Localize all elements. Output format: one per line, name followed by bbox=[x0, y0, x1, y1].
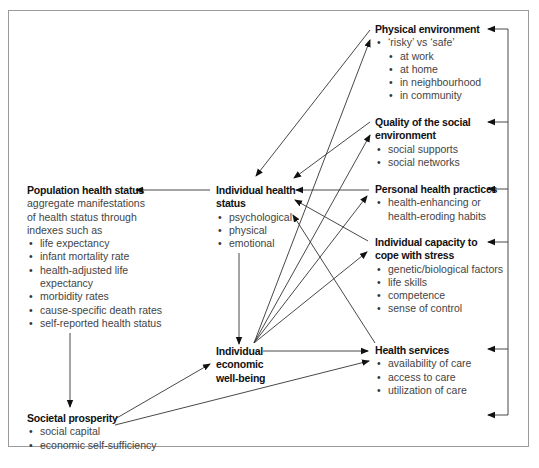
item-list: life expectancy infant mortality rate he… bbox=[27, 237, 162, 330]
list-item: life expectancy bbox=[27, 237, 162, 250]
node-physical-environment: Physical environment ‘risky’ vs ‘safe’ a… bbox=[375, 23, 481, 103]
list-item: economic self-sufficiency bbox=[27, 439, 157, 452]
node-title: Population health status bbox=[27, 184, 162, 197]
node-title: status bbox=[216, 197, 295, 210]
list-item: cause-specific death rates bbox=[27, 304, 162, 317]
list-item: infant mortality rate bbox=[27, 250, 162, 263]
list-item: emotional bbox=[216, 237, 295, 250]
node-population-health-status: Population health status aggregate manif… bbox=[27, 184, 162, 330]
list-item: availability of care bbox=[375, 357, 471, 370]
node-title: Health services bbox=[375, 344, 471, 357]
node-title: economic bbox=[216, 358, 265, 371]
list-item: physical bbox=[216, 224, 295, 237]
node-title: Societal prosperity bbox=[27, 412, 157, 425]
item-list: genetic/biological factors life skills c… bbox=[375, 263, 503, 316]
list-item: self-reported health status bbox=[27, 317, 162, 330]
list-item: genetic/biological factors bbox=[375, 263, 503, 276]
node-description: indexes such as bbox=[27, 224, 162, 237]
node-title: Personal health practices bbox=[375, 183, 497, 196]
list-item: social networks bbox=[375, 156, 471, 169]
item-list: health-enhancing or health-eroding habit… bbox=[375, 196, 497, 223]
node-title: well-being bbox=[216, 372, 265, 385]
list-item: at work bbox=[375, 50, 481, 63]
item-list: social capital economic self-sufficiency bbox=[27, 425, 157, 452]
node-capacity-to-cope: Individual capacity to cope with stress … bbox=[375, 236, 503, 316]
list-item: utilization of care bbox=[375, 384, 471, 397]
list-item: in community bbox=[375, 89, 481, 102]
list-item: access to care bbox=[375, 371, 471, 384]
list-item: sense of control bbox=[375, 302, 503, 315]
node-title: environment bbox=[375, 129, 471, 142]
node-health-services: Health services availability of care acc… bbox=[375, 344, 471, 397]
node-title: Physical environment bbox=[375, 23, 481, 36]
item-list: social supports social networks bbox=[375, 143, 471, 170]
list-item: competence bbox=[375, 289, 503, 302]
node-individual-economic-wellbeing: Individual economic well-being bbox=[216, 345, 265, 385]
list-item: psychological bbox=[216, 211, 295, 224]
item-list: psychological physical emotional bbox=[216, 211, 295, 251]
list-item-continuation: health-eroding habits bbox=[375, 210, 497, 223]
node-title: Individual health bbox=[216, 184, 295, 197]
node-title: Individual bbox=[216, 345, 265, 358]
node-societal-prosperity: Societal prosperity social capital econo… bbox=[27, 412, 157, 452]
node-individual-health-status: Individual health status psychological p… bbox=[216, 184, 295, 250]
node-description: aggregate manifestations bbox=[27, 197, 162, 210]
item-list: ‘risky’ vs ‘safe’ at work at home in nei… bbox=[375, 36, 481, 102]
list-item: life skills bbox=[375, 276, 503, 289]
node-title: Quality of the social bbox=[375, 116, 471, 129]
node-social-environment: Quality of the social environment social… bbox=[375, 116, 471, 169]
node-description: of health status through bbox=[27, 211, 162, 224]
node-title: Individual capacity to bbox=[375, 236, 503, 249]
list-item: health-adjusted life bbox=[27, 264, 162, 277]
list-item: social supports bbox=[375, 143, 471, 156]
list-item: in neighbourhood bbox=[375, 76, 481, 89]
list-item: at home bbox=[375, 63, 481, 76]
node-personal-health-practices: Personal health practices health-enhanci… bbox=[375, 183, 497, 223]
list-item: social capital bbox=[27, 425, 157, 438]
item-list: availability of care access to care util… bbox=[375, 357, 471, 397]
list-item-continuation: expectancy bbox=[27, 277, 162, 290]
list-item: morbidity rates bbox=[27, 290, 162, 303]
list-item: ‘risky’ vs ‘safe’ bbox=[375, 36, 481, 49]
node-title: cope with stress bbox=[375, 249, 503, 262]
list-item: health-enhancing or bbox=[375, 196, 497, 209]
